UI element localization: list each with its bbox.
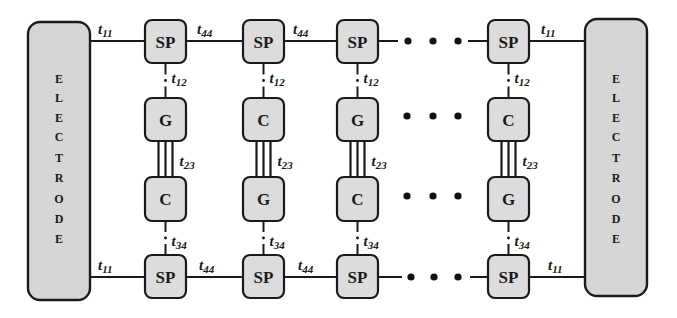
electrode-letter: R: [612, 171, 621, 185]
sugar-phosphate-node: SP: [145, 255, 186, 298]
electrode-letter: O: [611, 192, 620, 206]
coupling-t34-label: t34: [364, 233, 380, 251]
svg-text:SP: SP: [254, 268, 274, 287]
right-electrode: ELECTRODE: [585, 19, 647, 296]
coupling-t34-label: t34: [172, 233, 188, 251]
coupling-t12-label: t12: [515, 70, 531, 88]
ellipsis-bottom: [407, 273, 461, 280]
electrode-letter: O: [54, 192, 63, 206]
svg-text:C: C: [257, 111, 269, 130]
coupling-t23-label: t23: [523, 153, 539, 171]
coupling-t44-label: t44: [197, 21, 213, 39]
electrode-letter: E: [612, 111, 620, 125]
svg-text:G: G: [502, 190, 515, 209]
svg-text:C: C: [502, 111, 514, 130]
ellipsis-upper: [403, 112, 461, 119]
ellipsis-lower: [403, 192, 461, 199]
electrode-letter: L: [612, 91, 620, 105]
ellipsis-top: [404, 37, 461, 44]
base-node-g: G: [488, 177, 529, 221]
sugar-phosphate-node: SP: [488, 255, 529, 298]
electrode-letter: E: [55, 111, 63, 125]
sugar-phosphate-node: SP: [145, 20, 186, 63]
coupling-t23-label: t23: [180, 153, 196, 171]
dna-electrode-diagram: ELECTRODE ELECTRODE: [0, 0, 677, 318]
electrode-letter: T: [55, 151, 63, 165]
electrode-letter: L: [55, 91, 63, 105]
coupling-t44-label: t44: [199, 257, 215, 275]
electrode-letter: E: [55, 232, 63, 246]
svg-text:C: C: [351, 190, 363, 209]
svg-text:G: G: [159, 111, 172, 130]
svg-text:G: G: [351, 111, 364, 130]
coupling-t11-label: t11: [98, 257, 113, 275]
column-3: SPGCSPt12t23t34: [337, 20, 387, 298]
sugar-phosphate-node: SP: [243, 255, 284, 298]
coupling-t12-label: t12: [364, 70, 380, 88]
coupling-t11-label: t11: [98, 21, 113, 39]
base-node-g: G: [145, 98, 186, 141]
coupling-t11-label: t11: [541, 21, 556, 39]
left-electrode-label: ELECTRODE: [54, 72, 63, 246]
electrode-letter: E: [55, 72, 63, 86]
electrode-letter: C: [55, 130, 64, 144]
left-electrode: ELECTRODE: [28, 22, 90, 300]
svg-text:SP: SP: [499, 268, 519, 287]
svg-text:G: G: [257, 190, 270, 209]
electrode-letter: E: [612, 232, 620, 246]
sugar-phosphate-node: SP: [243, 20, 284, 63]
sugar-phosphate-node: SP: [337, 20, 378, 63]
column-2: SPCGSPt12t23t34: [243, 20, 293, 298]
electrode-letter: D: [612, 212, 621, 226]
base-node-c: C: [488, 98, 529, 141]
coupling-t12-label: t12: [270, 70, 286, 88]
svg-text:SP: SP: [156, 268, 176, 287]
column-1: SPGCSPt12t23t34: [145, 20, 195, 298]
base-node-g: G: [337, 98, 378, 141]
sugar-phosphate-node: SP: [488, 20, 529, 63]
svg-text:SP: SP: [499, 33, 519, 52]
electrode-letter: R: [55, 171, 64, 185]
electrode-letter: E: [612, 72, 620, 86]
electrode-letter: T: [612, 151, 620, 165]
coupling-t23-label: t23: [278, 153, 294, 171]
base-node-c: C: [337, 177, 378, 221]
svg-text:SP: SP: [348, 268, 368, 287]
coupling-t44-label: t44: [293, 21, 309, 39]
base-node-c: C: [243, 98, 284, 141]
base-pair-columns: SPGCSPt12t23t34SPCGSPt12t23t34SPGCSPt12t…: [145, 20, 538, 298]
right-electrode-label: ELECTRODE: [611, 72, 620, 246]
column-4: SPCGSPt12t23t34: [488, 20, 538, 298]
coupling-t44-label: t44: [298, 257, 314, 275]
coupling-t34-label: t34: [270, 233, 286, 251]
svg-text:SP: SP: [254, 33, 274, 52]
coupling-t23-label: t23: [372, 153, 388, 171]
svg-text:SP: SP: [348, 33, 368, 52]
electrode-letter: C: [612, 130, 621, 144]
coupling-t12-label: t12: [172, 70, 188, 88]
coupling-t34-label: t34: [515, 233, 531, 251]
svg-text:SP: SP: [156, 33, 176, 52]
coupling-t11-label: t11: [548, 257, 563, 275]
svg-text:C: C: [159, 190, 171, 209]
base-node-c: C: [145, 177, 186, 221]
base-node-g: G: [243, 177, 284, 221]
sugar-phosphate-node: SP: [337, 255, 378, 298]
electrode-letter: D: [55, 212, 64, 226]
